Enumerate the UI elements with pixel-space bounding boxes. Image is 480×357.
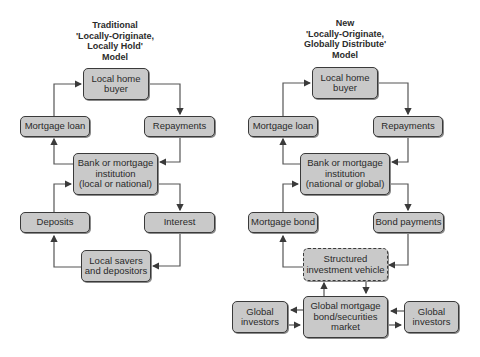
box-label: Deposits [37, 217, 74, 228]
box-label-line: investment vehicle [306, 265, 384, 276]
right-structured-investment-vehicle: Structured investment vehicle [303, 248, 388, 281]
box-label-line: Structured [324, 254, 368, 265]
left-local-savers: Local savers and depositors [81, 250, 151, 282]
box-label: Local home buyer [320, 73, 370, 94]
box-label-line: (national or global) [306, 179, 385, 190]
right-global-market: Global mortgage bond/securities market [303, 296, 388, 338]
box-label: Mortgage loan [25, 121, 86, 132]
left-deposits: Deposits [20, 212, 90, 233]
right-local-home-buyer: Local home buyer [312, 67, 378, 99]
left-bank-institution: Bank or mortgage institution (local or n… [73, 153, 158, 195]
box-label: Local home buyer [91, 74, 141, 95]
right-repayments: Repayments [373, 116, 443, 137]
box-label: Mortgage bond [251, 217, 315, 228]
left-interest: Interest [144, 212, 215, 233]
box-label: Interest [164, 217, 196, 228]
right-global-investors-right: Global investors [404, 301, 459, 333]
box-label-line: market [331, 322, 360, 333]
box-label: Repayments [381, 121, 434, 132]
box-label-line: and depositors [85, 266, 147, 277]
box-label: Mortgage loan [253, 121, 314, 132]
box-label-line: investors [412, 317, 450, 328]
right-global-investors-left: Global investors [232, 301, 288, 333]
right-mortgage-loan: Mortgage loan [248, 116, 318, 137]
box-label: Bond payments [375, 217, 441, 228]
box-label-line: (local or national) [79, 179, 152, 190]
left-repayments: Repayments [144, 116, 215, 137]
box-label-line: investors [241, 317, 279, 328]
left-local-home-buyer: Local home buyer [83, 68, 149, 100]
right-bank-institution: Bank or mortgage institution (national o… [300, 153, 390, 195]
box-label: Repayments [153, 121, 206, 132]
right-mortgage-bond: Mortgage bond [248, 212, 318, 233]
right-bond-payments: Bond payments [373, 212, 444, 233]
left-mortgage-loan: Mortgage loan [20, 116, 90, 137]
